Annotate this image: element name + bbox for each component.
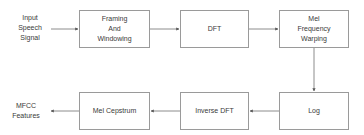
connector-arrows: [0, 0, 364, 135]
